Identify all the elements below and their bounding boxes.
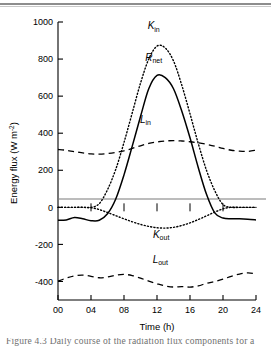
svg-text:Kin: Kin (148, 20, 160, 32)
x-tick-label: 16 (185, 305, 195, 315)
K_in-label-sub: in (154, 26, 160, 33)
y-tick-label: 800 (38, 54, 53, 64)
R_net-label-main: R (145, 52, 152, 63)
figure-caption-clip: Figure 4.3 Daily course of the radiation… (0, 338, 271, 347)
curve-annotations: KinRnetLinKoutLout (140, 20, 169, 266)
x-tick-label: 24 (251, 305, 261, 315)
y-tick-label: -400 (35, 277, 53, 287)
y-tick-label: 200 (38, 165, 53, 175)
y-tick-label: 0 (48, 203, 53, 213)
L_out-label: Lout (153, 254, 168, 266)
y-tick-label: 1000 (33, 17, 53, 27)
R_net-label: Rnet (145, 52, 162, 64)
x-tick-label: 20 (218, 305, 228, 315)
curve-l-out (58, 273, 256, 287)
svg-text:Rnet: Rnet (145, 52, 162, 64)
y-axis-ticks (58, 22, 63, 281)
x-axis-tick-labels: 00040812162024 (53, 305, 261, 315)
L_in-label-sub: in (146, 119, 152, 126)
x-axis-ticks (58, 295, 256, 300)
K_in-label: Kin (148, 20, 160, 32)
K_out-label: Kout (153, 229, 169, 241)
svg-text:Lout: Lout (153, 254, 168, 266)
x-tick-label: 08 (119, 305, 129, 315)
curve-k-in (58, 45, 256, 207)
L_in-label: Lin (140, 114, 151, 126)
figure-caption: Figure 4.3 Daily course of the radiation… (6, 338, 268, 346)
x-tick-label: 00 (53, 305, 63, 315)
figure-panel: 10008006004002000-200-400 00040812162024… (0, 0, 271, 347)
x-tick-label: 12 (152, 305, 162, 315)
energy-flux-chart: 10008006004002000-200-400 00040812162024… (0, 0, 271, 347)
y-tick-label: 600 (38, 91, 53, 101)
R_net-label-sub: net (152, 57, 162, 64)
x-axis-title: Time (h) (139, 321, 174, 332)
y-tick-label: 400 (38, 128, 53, 138)
curve-l-in (58, 141, 256, 155)
y-axis-tick-labels: 10008006004002000-200-400 (33, 17, 53, 286)
K_out-label-sub: out (160, 234, 170, 241)
svg-text:Energy flux (W m-2): Energy flux (W m-2) (8, 122, 20, 204)
y-axis-title: Energy flux (W m-2) (8, 122, 20, 204)
y-tick-label: -200 (35, 240, 53, 250)
svg-text:Lin: Lin (140, 114, 151, 126)
x-tick-label: 04 (86, 305, 96, 315)
L_out-label-sub: out (158, 259, 168, 266)
data-curves (58, 45, 256, 287)
svg-text:Kout: Kout (153, 229, 169, 241)
